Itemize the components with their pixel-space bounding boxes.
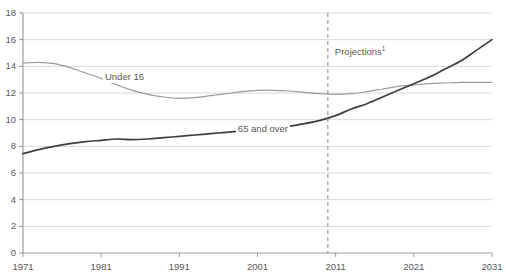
projections-annotation-label: Projections1 [333, 47, 388, 57]
y-axis-tick-label: 12 [0, 88, 16, 98]
y-axis-tick-label: 0 [0, 248, 16, 258]
x-axis-tick-label: 1991 [159, 262, 199, 272]
series-label-65-and-over: 65 and over [236, 124, 290, 134]
y-axis-tick-label: 8 [0, 141, 16, 151]
gridlines-group [23, 13, 492, 226]
y-axis-tick-label: 14 [0, 61, 16, 71]
x-axis-tick-label: 1981 [81, 262, 121, 272]
x-tick-marks-group [19, 13, 492, 257]
y-axis-tick-label: 10 [0, 115, 16, 125]
x-axis-tick-label: 2031 [472, 262, 508, 272]
y-axis-tick-label: 2 [0, 221, 16, 231]
x-axis-tick-label: 1971 [3, 262, 43, 272]
x-axis-tick-label: 2011 [316, 262, 356, 272]
projections-text: Projections [335, 46, 382, 57]
chart-plot-area [0, 0, 508, 279]
y-axis-tick-label: 6 [0, 168, 16, 178]
y-axis-tick-label: 18 [0, 8, 16, 18]
population-line-chart: 024681012141618 197119811991200120112021… [0, 0, 508, 279]
y-axis-tick-label: 4 [0, 195, 16, 205]
series-label-under-16: Under 16 [103, 72, 146, 82]
y-axis-tick-label: 16 [0, 35, 16, 45]
x-axis-tick-label: 2001 [238, 262, 278, 272]
x-axis-tick-label: 2021 [394, 262, 434, 272]
series-paths-group [23, 40, 492, 154]
series-line-65-and-over [23, 40, 492, 154]
projections-footnote-marker: 1 [382, 45, 386, 52]
